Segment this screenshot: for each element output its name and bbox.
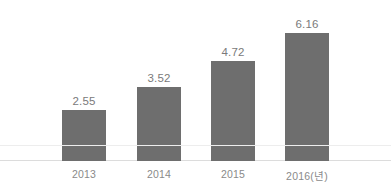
value-label-2014: 3.52 <box>123 72 195 84</box>
bar-2014[interactable] <box>137 87 181 161</box>
x-tick-label-2014: 2014 <box>117 168 201 180</box>
value-label-2013: 2.55 <box>48 95 120 107</box>
bar-2013[interactable] <box>62 110 106 161</box>
bar-2016[interactable] <box>285 33 329 161</box>
value-label-2016: 6.16 <box>271 18 343 30</box>
x-tick-label-2015: 2015 <box>191 168 275 180</box>
x-axis-labels: 2013 2014 2015 2016(년) <box>0 161 391 191</box>
x-tick-label-2013: 2013 <box>42 168 126 180</box>
value-label-2015: 4.72 <box>197 46 269 58</box>
bar-2015[interactable] <box>211 61 255 161</box>
x-tick-label-2016: 2016(년) <box>265 168 349 183</box>
bars-layer: 2.55 3.52 4.72 6.16 <box>0 0 391 161</box>
plot-area: 2.55 3.52 4.72 6.16 <box>0 0 391 161</box>
bar-chart: 2.55 3.52 4.72 6.16 2013 2014 2015 2016(… <box>0 0 391 191</box>
